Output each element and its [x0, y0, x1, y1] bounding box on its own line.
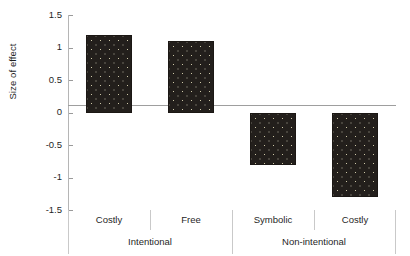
x-axis-separator [68, 210, 69, 254]
bar [332, 113, 378, 198]
y-tick-label: -1 [54, 171, 62, 182]
x-axis-category-panel: CostlyFreeSymbolicCostlyIntentionalNon-i… [68, 210, 396, 256]
bar [250, 113, 296, 165]
y-tick-label: 1 [57, 41, 62, 52]
x-axis-separator [314, 210, 315, 230]
x-group-label: Non-intentional [232, 236, 396, 247]
x-category-label: Free [150, 214, 232, 225]
x-axis-separator [150, 210, 151, 230]
x-category-label: Costly [68, 214, 150, 225]
x-group-label: Intentional [68, 236, 232, 247]
y-tick-label: 0.5 [49, 74, 62, 85]
y-tick-label: -1.5 [46, 204, 62, 215]
y-tick-label: -0.5 [46, 139, 62, 150]
bar [168, 41, 214, 113]
x-category-label: Symbolic [232, 214, 314, 225]
x-axis-separator [395, 210, 396, 254]
x-axis-separator [232, 210, 233, 254]
y-tick-label: 1.5 [49, 9, 62, 20]
bar-chart: Size of effect 1.510.50-0.5-1-1.5 Costly… [0, 0, 410, 256]
plot-area [68, 15, 396, 210]
x-category-label: Costly [314, 214, 396, 225]
y-tick-label: 0 [57, 106, 62, 117]
bar [86, 35, 132, 113]
